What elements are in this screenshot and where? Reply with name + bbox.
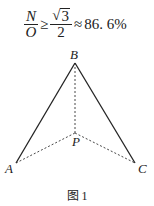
point-label-c: C xyxy=(138,161,147,177)
point-label-a: A xyxy=(5,161,13,177)
point-label-b: B xyxy=(70,47,78,63)
figure-caption: 图 1 xyxy=(0,186,154,204)
point-label-p: P xyxy=(72,134,80,150)
triangle-diagram xyxy=(0,0,154,206)
